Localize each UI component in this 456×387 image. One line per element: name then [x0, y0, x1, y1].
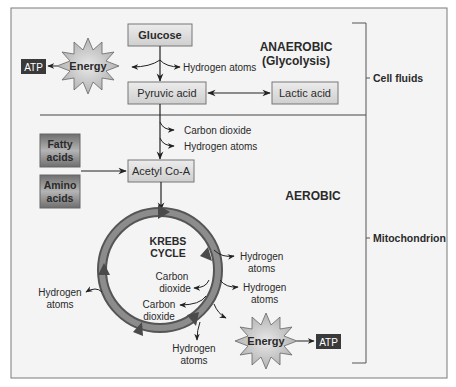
- h-right1-b: atoms: [248, 263, 275, 274]
- co2-inner1-a: Carbon: [156, 271, 189, 282]
- amino-acids-label-1: Amino: [44, 179, 77, 191]
- acetyl-coa-label: Acetyl Co-A: [132, 165, 191, 177]
- krebs-label-2: CYCLE: [150, 247, 186, 259]
- h-left-b: atoms: [46, 299, 73, 310]
- h-left-a: Hydrogen: [38, 287, 81, 298]
- anaerobic-title: ANAEROBIC: [260, 40, 333, 54]
- atp-label-bottom: ATP: [319, 337, 338, 348]
- region-label-cell-fluids: Cell fluids: [373, 72, 423, 84]
- h-right2-a: Hydrogen: [243, 282, 286, 293]
- h-atoms-glycolysis: Hydrogen atoms: [183, 62, 256, 73]
- pyruvic-acid-label: Pyruvic acid: [137, 87, 196, 99]
- h-bottom-a: Hydrogen: [172, 343, 215, 354]
- glucose-label: Glucose: [138, 29, 181, 41]
- h-bottom-b: atoms: [180, 355, 207, 366]
- co2-inner1-b: dioxide: [159, 283, 191, 294]
- energy-label-top: Energy: [69, 60, 107, 72]
- region-label-mitochondrion: Mitochondrion: [373, 232, 446, 244]
- fatty-acids-label-2: acids: [47, 151, 74, 163]
- energy-label-bottom: Energy: [247, 335, 285, 347]
- lactic-acid-label: Lactic acid: [279, 87, 331, 99]
- aerobic-title: AEROBIC: [285, 189, 341, 203]
- atp-label-top: ATP: [24, 62, 43, 73]
- energy-metabolism-diagram: Cell fluids Mitochondrion ANAEROBIC (Gly…: [0, 0, 456, 387]
- co2-inner2-a: Carbon: [143, 299, 176, 310]
- amino-acids-label-2: acids: [47, 192, 74, 204]
- fatty-acids-label-1: Fatty: [47, 138, 72, 150]
- co2-pyruvate: Carbon dioxide: [184, 125, 252, 136]
- h-atoms-pyruvate: Hydrogen atoms: [184, 141, 257, 152]
- h-right2-b: atoms: [251, 294, 278, 305]
- co2-inner2-b: dioxide: [143, 311, 175, 322]
- krebs-label-1: KREBS: [150, 235, 187, 247]
- h-right1-a: Hydrogen: [240, 251, 283, 262]
- anaerobic-subtitle: (Glycolysis): [262, 54, 330, 68]
